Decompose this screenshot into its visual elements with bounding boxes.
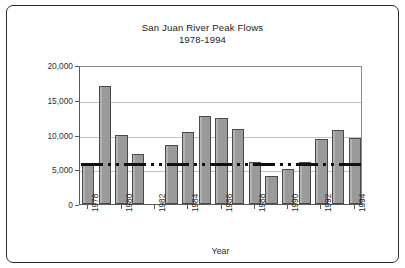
- bar: [299, 162, 311, 204]
- y-tick-mark: [75, 66, 79, 67]
- y-tick-mark: [75, 170, 79, 171]
- bar: [332, 130, 344, 204]
- bar: [265, 176, 277, 204]
- y-tick-label: 0: [25, 200, 73, 210]
- bar: [99, 86, 111, 204]
- x-tick-mark: [87, 205, 88, 209]
- bar: [215, 118, 227, 204]
- bar: [165, 145, 177, 204]
- y-tick-mark: [75, 101, 79, 102]
- chart-title: San Juan River Peak Flows: [0, 22, 405, 33]
- chart-subtitle: 1978-1994: [0, 34, 405, 45]
- y-tick-label: 10,000: [25, 131, 73, 141]
- x-tick-mark: [320, 205, 321, 209]
- chart-page: San Juan River Peak Flows 1978-1994 Peak…: [0, 0, 405, 268]
- x-tick-label: 1982: [158, 194, 167, 212]
- x-tick-mark: [354, 205, 355, 209]
- y-tick-mark: [75, 136, 79, 137]
- x-tick-label: 1992: [324, 194, 333, 212]
- y-tick-label: 5,000: [25, 165, 73, 175]
- y-tick-label: 20,000: [25, 61, 73, 71]
- x-tick-label: 1988: [258, 194, 267, 212]
- x-tick-mark: [254, 205, 255, 209]
- plot-area: [79, 66, 362, 205]
- x-tick-label: 1994: [358, 194, 367, 212]
- x-tick-mark: [221, 205, 222, 209]
- bar: [199, 116, 211, 204]
- y-tick-label: 15,000: [25, 96, 73, 106]
- x-tick-mark: [187, 205, 188, 209]
- x-tick-mark: [154, 205, 155, 209]
- x-tick-label: 1990: [291, 194, 300, 212]
- bar: [232, 129, 244, 204]
- y-tick-mark: [75, 205, 79, 206]
- x-tick-label: 1978: [91, 194, 100, 212]
- x-tick-label: 1984: [191, 194, 200, 212]
- bar-series: [80, 67, 361, 204]
- x-tick-label: 1980: [125, 194, 134, 212]
- x-tick-mark: [121, 205, 122, 209]
- x-axis-title: Year: [79, 246, 362, 256]
- x-tick-label: 1986: [225, 194, 234, 212]
- x-tick-mark: [287, 205, 288, 209]
